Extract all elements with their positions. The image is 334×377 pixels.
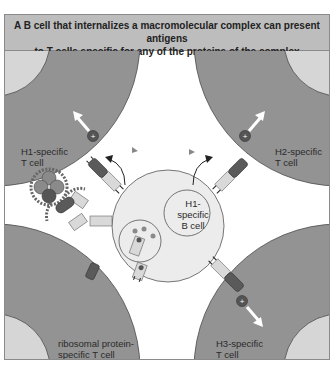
label-h3-t-cell: H3-specific T cell <box>216 338 263 360</box>
peptide-fragment <box>133 229 138 234</box>
b-cell-receptor <box>69 191 112 230</box>
svg-text:+: + <box>91 132 96 141</box>
diagram-frame: A B cell that internalizes a macromolecu… <box>4 14 330 360</box>
label-b-cell: H1- specific B cell <box>174 198 212 231</box>
label-ribosomal-t-cell: ribosomal protein- specific T cell <box>58 338 134 360</box>
label-h2-t-cell: H2-specific T cell <box>275 146 322 168</box>
mhc-tcr-complex-h1 <box>85 155 125 195</box>
mhc-tcr-complex-h2 <box>211 157 248 194</box>
svg-text:+: + <box>240 297 245 306</box>
title-line-1: A B cell that internalizes a macromolecu… <box>5 15 329 45</box>
svg-text:+: + <box>243 132 248 141</box>
peptide-fragment <box>142 227 147 232</box>
cell-interaction-diagram: + + + <box>5 51 329 359</box>
label-h1-t-cell: H1-specific T cell <box>21 146 68 168</box>
peptide-fragment <box>151 234 156 239</box>
diagram-title: A B cell that internalizes a macromolecu… <box>5 15 329 51</box>
